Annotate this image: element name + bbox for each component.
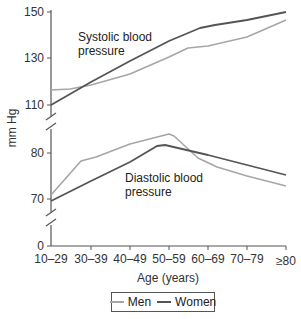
x-tick-40-49: 40–49 <box>113 252 147 266</box>
x-tick-70-79: 70–79 <box>230 252 264 266</box>
diastolic-label-line1: Diastolic blood <box>125 171 203 185</box>
diastolic-label-line2: pressure <box>125 185 172 199</box>
x-tick-10-29: 10–29 <box>34 252 68 266</box>
legend-label-men: Men <box>128 295 151 309</box>
x-tick-80-plus: ≥80 <box>276 254 296 268</box>
systolic-label-line2: pressure <box>78 44 125 58</box>
chart-legend: Men Women <box>111 292 215 312</box>
x-tick-50-59: 50–59 <box>152 252 186 266</box>
systolic-women-line <box>51 12 286 105</box>
y-tick-150: 150 <box>24 5 44 19</box>
legend-item-men: Men <box>110 295 151 309</box>
men-swatch-icon <box>110 301 124 303</box>
legend-item-women: Women <box>157 295 216 309</box>
x-axis-label: Age (years) <box>137 271 199 285</box>
legend-label-women: Women <box>175 295 216 309</box>
x-ticks <box>91 246 286 250</box>
x-tick-60-69: 60–69 <box>191 252 225 266</box>
bp-chart: 150 130 110 80 70 0 mm Hg 10–29 30–39 40… <box>0 0 301 319</box>
x-tick-30-39: 30–39 <box>74 252 108 266</box>
y-tick-70: 70 <box>31 192 45 206</box>
y-tick-80: 80 <box>31 146 45 160</box>
systolic-label-line1: Systolic blood <box>78 30 152 44</box>
y-axis-label: mm Hg <box>5 109 19 148</box>
y-tick-130: 130 <box>24 51 44 65</box>
women-swatch-icon <box>157 301 171 303</box>
y-tick-0: 0 <box>37 239 44 253</box>
y-tick-110: 110 <box>25 98 44 112</box>
